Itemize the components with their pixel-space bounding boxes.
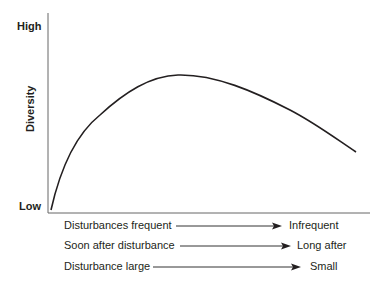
gradient-to-3: Small (310, 260, 338, 272)
gradient-arrow-3 (153, 264, 301, 271)
gradient-to-1: Infrequent (289, 219, 339, 231)
gradient-arrow-2 (180, 243, 291, 250)
y-axis-title: Diversity (24, 88, 36, 132)
gradient-arrow-1 (176, 223, 282, 230)
gradient-from-3: Disturbance large (64, 260, 150, 274)
y-label-high: High (17, 20, 41, 32)
y-label-low: Low (19, 200, 41, 212)
diversity-curve (51, 75, 356, 210)
gradient-from-2: Soon after disturbance (64, 239, 175, 253)
gradient-to-2: Long after (297, 239, 347, 251)
gradient-from-1: Disturbances frequent (64, 219, 172, 233)
